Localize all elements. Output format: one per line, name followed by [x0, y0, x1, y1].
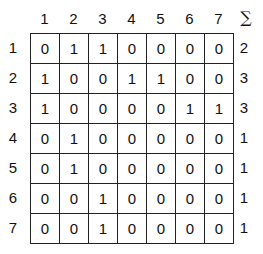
matrix-cell: 0: [118, 124, 147, 154]
row-header: 3: [6, 93, 20, 123]
matrix-cell: 0: [176, 214, 205, 244]
matrix-cell: 0: [60, 94, 89, 124]
matrix-cell: 0: [31, 184, 60, 214]
matrix-row: 0010000: [31, 214, 234, 244]
matrix-cell: 0: [89, 124, 118, 154]
row-header: 5: [6, 153, 20, 183]
matrix-cell: 0: [147, 34, 176, 64]
row-header: 4: [6, 123, 20, 153]
column-header: 6: [175, 10, 204, 28]
matrix-cell: 1: [176, 94, 205, 124]
matrix-cell: 1: [60, 154, 89, 184]
matrix-cell: 0: [89, 94, 118, 124]
matrix-cell: 0: [176, 34, 205, 64]
matrix-grid: 0110000100110010000110100000010000000100…: [30, 33, 234, 244]
sum-column-header: ∑: [236, 9, 256, 27]
matrix-cell: 0: [89, 154, 118, 184]
matrix-cell: 0: [205, 34, 234, 64]
matrix-cell: 0: [147, 184, 176, 214]
row-sum: 3: [236, 93, 252, 123]
matrix-cell: 1: [31, 94, 60, 124]
matrix-cell: 1: [89, 34, 118, 64]
row-header: 1: [6, 33, 20, 63]
matrix-row: 0100000: [31, 124, 234, 154]
matrix-cell: 0: [205, 154, 234, 184]
row-header: 7: [6, 213, 20, 243]
matrix-cell: 0: [31, 154, 60, 184]
matrix-cell: 0: [118, 154, 147, 184]
matrix-cell: 0: [118, 184, 147, 214]
matrix-cell: 0: [147, 94, 176, 124]
matrix-row: 0010000: [31, 184, 234, 214]
matrix-cell: 0: [147, 154, 176, 184]
matrix-cell: 0: [118, 94, 147, 124]
column-header: 3: [88, 10, 117, 28]
column-header: 5: [146, 10, 175, 28]
matrix-row: 0100000: [31, 154, 234, 184]
matrix-row: 1000011: [31, 94, 234, 124]
matrix-cell: 0: [60, 214, 89, 244]
column-header: 1: [30, 10, 59, 28]
matrix-cell: 0: [118, 214, 147, 244]
row-sum: 1: [236, 123, 252, 153]
matrix-cell: 0: [176, 184, 205, 214]
matrix-cell: 0: [147, 124, 176, 154]
matrix-cell: 0: [60, 184, 89, 214]
matrix-cell: 0: [31, 214, 60, 244]
matrix-cell: 0: [205, 214, 234, 244]
matrix-cell: 1: [205, 94, 234, 124]
row-sum: 3: [236, 63, 252, 93]
matrix-cell: 0: [89, 64, 118, 94]
row-sum: 1: [236, 153, 252, 183]
matrix-cell: 0: [118, 34, 147, 64]
matrix-cell: 0: [31, 124, 60, 154]
matrix-cell: 1: [60, 34, 89, 64]
row-sum: 1: [236, 213, 252, 243]
matrix-cell: 0: [176, 64, 205, 94]
matrix-cell: 0: [205, 184, 234, 214]
matrix-cell: 1: [89, 184, 118, 214]
row-header: 6: [6, 183, 20, 213]
row-sum: 2: [236, 33, 252, 63]
matrix-cell: 1: [31, 64, 60, 94]
column-header: 7: [204, 10, 233, 28]
matrix-cell: 1: [60, 124, 89, 154]
column-header: 4: [117, 10, 146, 28]
matrix-cell: 1: [147, 64, 176, 94]
matrix-cell: 1: [118, 64, 147, 94]
matrix-row: 1001100: [31, 64, 234, 94]
matrix-cell: 0: [205, 124, 234, 154]
matrix-cell: 0: [205, 64, 234, 94]
row-header: 2: [6, 63, 20, 93]
matrix-cell: 0: [60, 64, 89, 94]
matrix-cell: 0: [176, 154, 205, 184]
matrix-cell: 0: [147, 214, 176, 244]
matrix-row: 0110000: [31, 34, 234, 64]
row-sum: 1: [236, 183, 252, 213]
column-header: 2: [59, 10, 88, 28]
matrix-cell: 1: [89, 214, 118, 244]
matrix-cell: 0: [176, 124, 205, 154]
matrix-cell: 0: [31, 34, 60, 64]
